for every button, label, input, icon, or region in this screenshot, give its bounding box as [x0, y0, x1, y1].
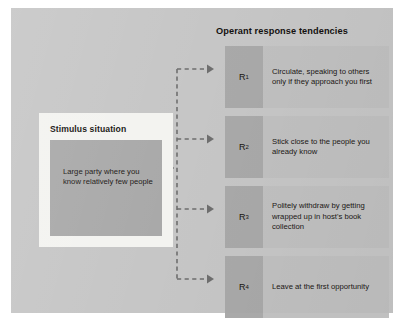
- response-row: R4 Leave at the first opportunity: [225, 256, 389, 318]
- stimulus-situation-card: Stimulus situation Large party where you…: [39, 113, 173, 247]
- stimulus-situation-title: Stimulus situation: [50, 124, 126, 134]
- arrowhead-2: [207, 135, 214, 144]
- diagram-screenshot: Operant response tendencies R1 Circulate…: [0, 0, 405, 327]
- response-label-subscript: 1: [246, 74, 249, 80]
- stimulus-inner-box: Large party where you know relatively fe…: [50, 140, 162, 236]
- response-label-box: R4: [225, 256, 263, 318]
- operant-response-tendencies-title: Operant response tendencies: [216, 25, 405, 37]
- response-row: R1 Circulate, speaking to others only if…: [225, 46, 389, 108]
- response-description: Stick close to the people you already kn…: [272, 116, 384, 178]
- diagram-panel: Operant response tendencies R1 Circulate…: [11, 8, 393, 313]
- response-label-subscript: 3: [246, 214, 249, 220]
- response-label-subscript: 4: [246, 284, 249, 290]
- arrowhead-3: [207, 205, 214, 214]
- arrowhead-4: [207, 275, 214, 284]
- response-description: Circulate, speaking to others only if th…: [272, 46, 384, 108]
- response-label-box: R3: [225, 186, 263, 248]
- response-label-box: R2: [225, 116, 263, 178]
- response-label-box: R1: [225, 46, 263, 108]
- response-row: R3 Politely withdraw by getting wrapped …: [225, 186, 389, 248]
- response-row: R2 Stick close to the people you already…: [225, 116, 389, 178]
- response-description: Leave at the first opportunity: [272, 256, 384, 318]
- stimulus-situation-text: Large party where you know relatively fe…: [63, 167, 154, 188]
- response-label-subscript: 2: [246, 144, 249, 150]
- arrowhead-1: [207, 65, 214, 74]
- response-description: Politely withdraw by getting wrapped up …: [272, 186, 384, 248]
